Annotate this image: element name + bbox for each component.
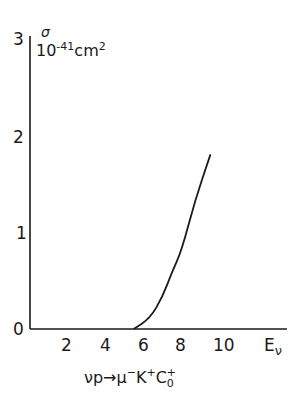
x-tick-4: 4 (100, 337, 111, 354)
x-axis-E: E (264, 335, 275, 355)
y-tick-0: 0 (13, 321, 24, 338)
reaction-mu-charge: − (127, 366, 136, 379)
y-tick-1: 1 (16, 225, 27, 242)
reaction-C-scripts: +0 (167, 367, 176, 389)
reaction-K-charge: + (146, 366, 155, 379)
y-unit-base: 10 (36, 41, 56, 60)
reaction-nu-p: νp (84, 368, 103, 387)
x-tick-2: 2 (61, 337, 72, 354)
reaction-mu: μ (117, 368, 127, 387)
reaction-C: C (156, 368, 167, 387)
x-axis-nu: ν (275, 343, 282, 358)
y-axis-unit: 10-41cm2 (36, 40, 106, 60)
reaction-arrow: → (103, 368, 116, 387)
cross-section-curve (134, 154, 211, 329)
y-unit-cm: cm (74, 41, 98, 60)
y-axis-symbol: σ (41, 24, 50, 40)
y-tick-2: 2 (13, 129, 24, 146)
y-tick-3: 3 (13, 31, 24, 48)
reaction-K: K (136, 368, 147, 387)
x-tick-10: 10 (213, 337, 235, 354)
reaction-label: νp→μ−K+C+0 (84, 367, 176, 389)
x-tick-6: 6 (138, 337, 149, 354)
x-tick-8: 8 (175, 337, 186, 354)
y-unit-exponent: -41 (56, 40, 74, 53)
x-axis-label: Eν (264, 337, 282, 357)
reaction-C-subscript: 0 (167, 378, 176, 389)
chart-canvas (0, 0, 304, 415)
y-unit-cm-exponent: 2 (99, 40, 106, 53)
